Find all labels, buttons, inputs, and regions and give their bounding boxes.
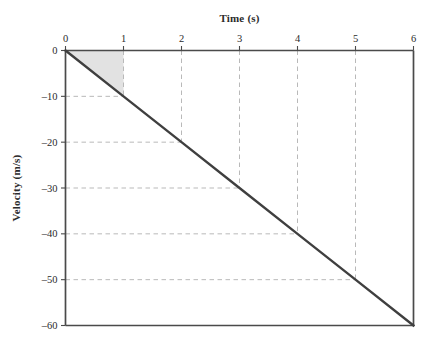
y-tick-label-60: –60 xyxy=(41,320,58,331)
chart-canvas: 01234560–10–20–30–40–50–60Time (s)Veloci… xyxy=(0,0,444,349)
y-tick-label-50: –50 xyxy=(41,274,58,285)
y-tick-label-20: –20 xyxy=(41,137,58,148)
x-tick-label-2: 2 xyxy=(179,33,184,44)
y-axis-title: Velocity (m/s) xyxy=(10,154,23,221)
x-tick-label-6: 6 xyxy=(411,33,416,44)
x-tick-label-0: 0 xyxy=(63,33,68,44)
x-tick-label-4: 4 xyxy=(295,33,301,44)
x-tick-label-1: 1 xyxy=(121,33,126,44)
x-axis-title: Time (s) xyxy=(219,12,259,25)
y-tick-label-0: 0 xyxy=(52,45,57,56)
y-tick-label-40: –40 xyxy=(41,228,58,239)
x-tick-label-5: 5 xyxy=(353,33,358,44)
velocity-time-chart-figure: 01234560–10–20–30–40–50–60Time (s)Veloci… xyxy=(0,0,444,349)
y-tick-label-30: –30 xyxy=(41,183,58,194)
x-tick-label-3: 3 xyxy=(237,33,242,44)
y-tick-label-10: –10 xyxy=(41,91,58,102)
